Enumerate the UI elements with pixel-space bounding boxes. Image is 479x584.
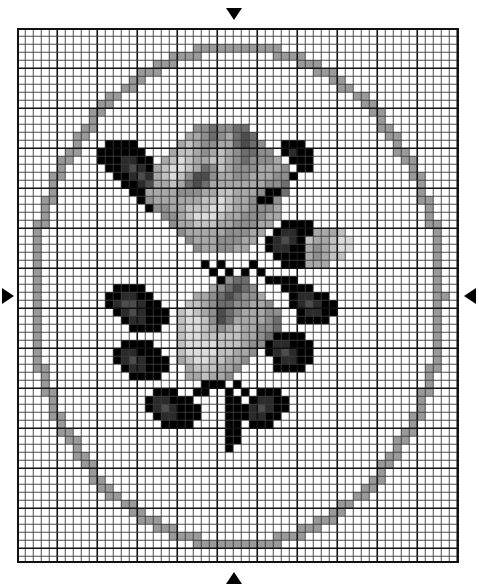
pattern-grid-canvas[interactable]: [17, 28, 459, 563]
center-marker-top-icon: [226, 8, 242, 20]
pattern-chart-area[interactable]: [17, 28, 459, 563]
center-marker-left-icon: [2, 288, 14, 304]
center-marker-bottom-icon: [226, 572, 242, 584]
center-marker-right-icon: [464, 288, 476, 304]
